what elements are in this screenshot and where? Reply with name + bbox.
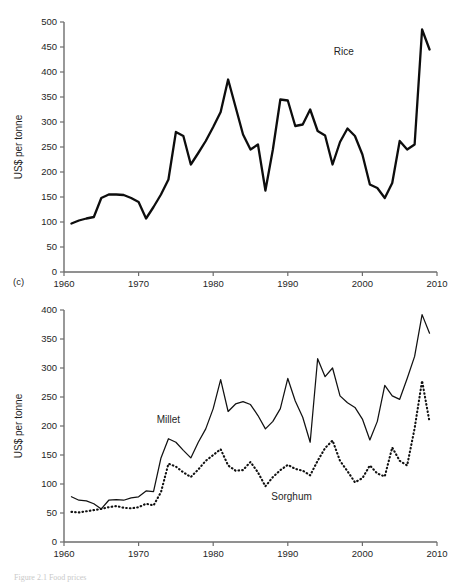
y-axis-tick-label: 350 <box>41 333 57 344</box>
series-line-rice <box>71 30 429 224</box>
x-axis-tick-label: 2000 <box>352 548 373 559</box>
rice-chart-svg: 0501001502002503003504004505001960197019… <box>0 0 465 292</box>
y-axis-tick-label: 500 <box>41 16 57 27</box>
x-axis-tick-label: 1980 <box>203 278 224 289</box>
panel-letter-c: (c) <box>13 276 24 287</box>
y-axis-tick-label: 150 <box>41 191 57 202</box>
y-axis-tick-label: 450 <box>41 41 57 52</box>
x-axis-tick-label: 1980 <box>203 548 224 559</box>
y-axis-tick-label: 150 <box>41 449 57 460</box>
y-axis-tick-label: 300 <box>41 116 57 127</box>
y-axis-tick-label: 400 <box>41 66 57 77</box>
x-axis-tick-label: 1970 <box>128 278 149 289</box>
x-axis-tick-label: 2010 <box>426 278 447 289</box>
y-axis-tick-label: 50 <box>46 241 57 252</box>
series-annotation-sorghum: Sorghum <box>271 491 312 502</box>
series-annotation-millet: Millet <box>157 414 181 425</box>
y-axis-tick-label: 400 <box>41 304 57 315</box>
y-axis-tick-label: 300 <box>41 362 57 373</box>
x-axis-tick-label: 1960 <box>53 278 74 289</box>
y-axis-tick-label: 250 <box>41 391 57 402</box>
figure-caption: Figure 2.1 Food prices <box>14 573 86 582</box>
y-axis-tick-label: 0 <box>52 536 57 547</box>
series-annotation-rice: Rice <box>334 46 354 57</box>
series-line-millet <box>71 315 429 509</box>
x-axis-tick-label: 1990 <box>277 278 298 289</box>
series-line-sorghum <box>71 381 429 513</box>
y-axis-tick-label: 50 <box>46 507 57 518</box>
y-axis-tick-label: 100 <box>41 216 57 227</box>
chart-panel-rice: 0501001502002503003504004505001960197019… <box>0 0 465 292</box>
chart-panel-millet-sorghum: 0501001502002503003504001960197019801990… <box>0 292 465 562</box>
y-axis-tick-label: 200 <box>41 166 57 177</box>
figure-container: 0501001502002503003504004505001960197019… <box>0 0 465 588</box>
y-axis-title: US$ per tonne <box>13 393 24 458</box>
y-axis-tick-label: 100 <box>41 478 57 489</box>
x-axis-tick-label: 1990 <box>277 548 298 559</box>
y-axis-title: US$ per tonne <box>13 114 24 179</box>
x-axis-tick-label: 2000 <box>352 278 373 289</box>
x-axis-tick-label: 1960 <box>53 548 74 559</box>
y-axis-tick-label: 350 <box>41 91 57 102</box>
x-axis-tick-label: 2010 <box>426 548 447 559</box>
millet-sorghum-chart-svg: 0501001502002503003504001960197019801990… <box>0 292 465 562</box>
y-axis-tick-label: 250 <box>41 141 57 152</box>
x-axis-tick-label: 1970 <box>128 548 149 559</box>
y-axis-tick-label: 0 <box>52 266 57 277</box>
y-axis-tick-label: 200 <box>41 420 57 431</box>
